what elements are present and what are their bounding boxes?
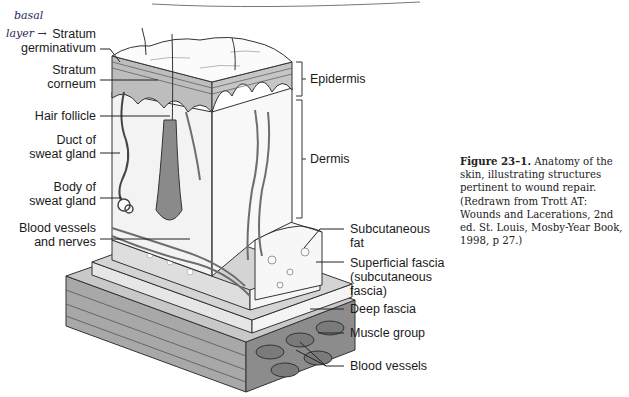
label-superficial-fascia: Superficial fascia (subcutaneous fascia) [350,256,445,298]
label-line: Stratum [21,27,96,41]
label-line: fat [350,236,430,250]
label-body-of-sweat-gland: Body of sweat gland [29,180,96,208]
label-line: (subcutaneous [350,270,445,284]
figure-number: Figure 23–1. [460,155,531,167]
epidermis-bracket [296,62,306,96]
label-line: Subcutaneous [350,222,430,236]
label-blood-vessels-and-nerves: Blood vessels and nerves [19,221,96,249]
label-line: Body of [29,180,96,194]
label-line: Blood vessels [19,221,96,235]
dermis-bracket [296,100,306,218]
label-line: Epidermis [310,72,366,86]
label-line: fascia) [350,284,445,298]
label-line: Deep fascia [350,302,416,316]
label-line: Dermis [310,152,350,166]
label-line: Duct of [29,133,96,147]
label-blood-vessels: Blood vessels [350,359,427,373]
handwritten-basal: basal [14,9,43,22]
label-epidermis: Epidermis [310,72,366,86]
label-line: Superficial fascia [350,256,445,270]
label-line: germinativum [21,41,96,55]
label-line: Muscle group [350,326,425,340]
label-subcutaneous-fat: Subcutaneous fat [350,222,430,250]
figure-caption: Figure 23–1. Anatomy of the skin, illust… [460,155,629,247]
label-line: sweat gland [29,194,96,208]
label-dermis: Dermis [310,152,350,166]
caption-text: Anatomy of the skin, illustrating struct… [460,156,623,246]
label-line: sweat gland [29,147,96,161]
label-muscle-group: Muscle group [350,326,425,340]
label-line: Stratum [47,63,96,77]
label-deep-fascia: Deep fascia [350,302,416,316]
label-stratum-corneum: Stratum corneum [47,63,96,91]
label-line: Hair follicle [35,109,96,123]
label-line: corneum [47,77,96,91]
label-hair-follicle: Hair follicle [35,109,96,123]
label-stratum-germinativum: Stratum germinativum [21,27,96,55]
handwritten-annotation: basal [14,9,43,22]
label-line: and nerves [19,235,96,249]
label-duct-of-sweat-gland: Duct of sweat gland [29,133,96,161]
label-line: Blood vessels [350,359,427,373]
